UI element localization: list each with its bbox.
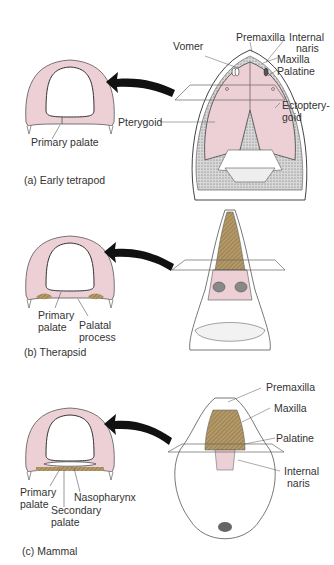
caption-early-tetrapod: (a) Early tetrapod [24,174,105,186]
label-palatine-a: Palatine [277,66,315,77]
label-secondary-palate-1: Secondary [51,505,101,516]
label-naris-c: naris [287,478,310,489]
label-pterygoid: Pterygoid [118,117,162,128]
label-primary-c-2: palate [20,499,49,510]
label-primary-palate-a: Primary palate [31,137,99,148]
label-premaxilla-c: Premaxilla [266,382,315,393]
palate-section-a [26,60,115,139]
label-premaxilla-a: Premaxilla [236,32,285,43]
label-ectopterygoid-2: goid [282,112,302,123]
label-ectopterygoid-1: Ectoptery- [282,100,330,111]
caption-therapsid: (b) Therapsid [24,346,86,358]
label-palatal-process-2: process [79,332,116,343]
label-primary-c-1: Primary [20,487,56,498]
arrow-b [104,242,174,271]
label-primary-b-1: Primary [38,310,74,321]
skull-b [172,210,285,350]
label-maxilla-a: Maxilla [277,54,310,65]
label-palatal-process-1: Palatal [79,320,111,331]
label-primary-b-2: palate [38,322,67,333]
skull-c [168,388,284,539]
palate-evolution-diagram [0,0,334,565]
label-nasopharynx: Nasopharynx [74,492,136,503]
label-secondary-palate-2: palate [51,517,80,528]
label-palatine-c: Palatine [276,433,314,444]
label-maxilla-c: Maxilla [274,403,307,414]
label-vomer: Vomer [173,41,203,52]
caption-mammal: (c) Mammal [22,545,77,557]
arrow-a [106,72,175,97]
palate-section-b [26,236,115,316]
label-internal-c: Internal [284,466,319,477]
arrow-c [104,414,172,445]
